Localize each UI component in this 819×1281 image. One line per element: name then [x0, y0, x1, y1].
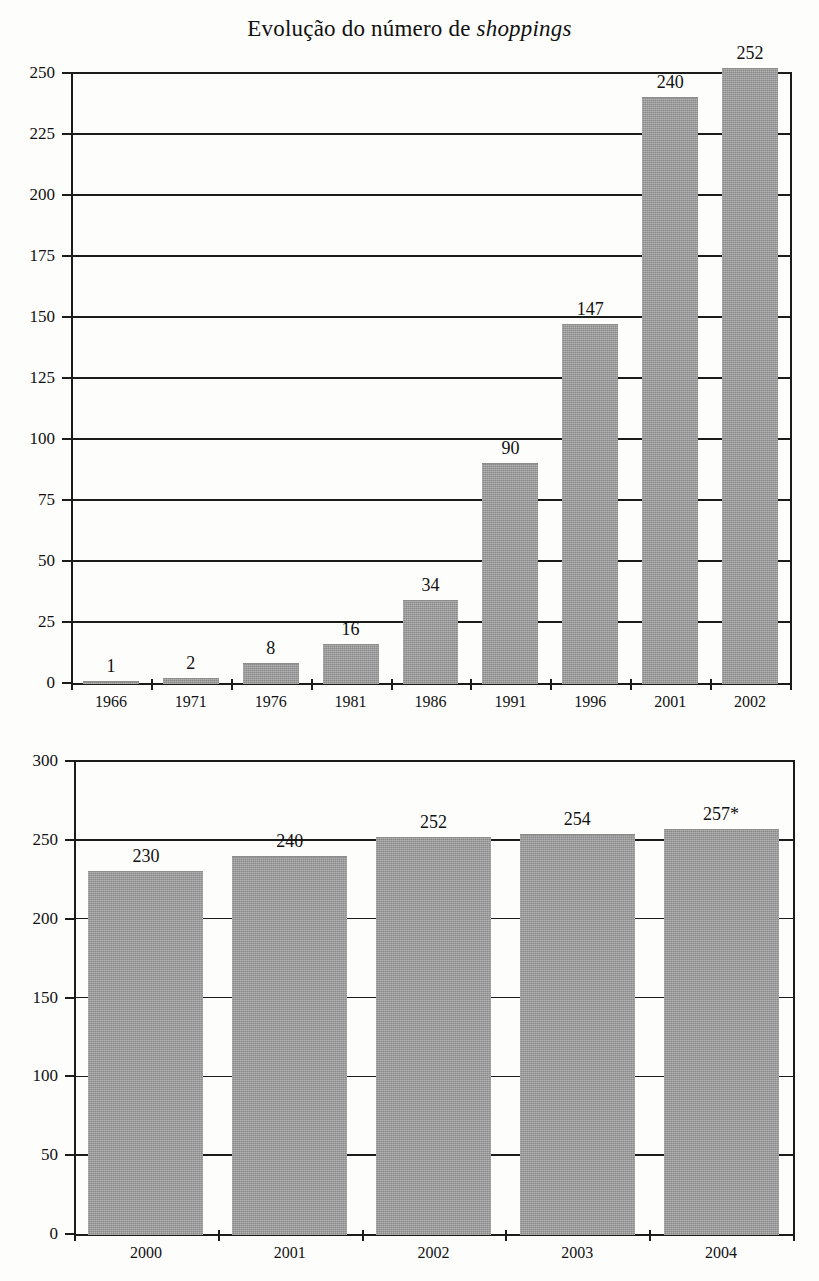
bar	[232, 856, 347, 1235]
x-axis-tick	[505, 1230, 507, 1241]
x-axis-tick	[362, 1230, 364, 1241]
x-axis-label: 2000	[96, 1245, 196, 1261]
gridline	[74, 760, 795, 762]
y-axis-tick	[65, 839, 75, 841]
y-axis-label: 250	[0, 831, 58, 848]
y-axis-tick	[65, 760, 75, 762]
bar-value-label: 230	[96, 847, 196, 865]
bar-value-label: 257*	[671, 805, 771, 823]
y-axis-label: 300	[0, 752, 58, 769]
x-axis-tick	[793, 1230, 795, 1241]
y-axis-label: 50	[0, 1146, 58, 1163]
x-axis-tick	[218, 1230, 220, 1241]
y-axis-label: 150	[0, 989, 58, 1006]
x-axis-tick	[74, 1230, 76, 1241]
bar-value-label: 252	[384, 813, 484, 831]
y-axis-label: 100	[0, 1067, 58, 1084]
bar	[376, 837, 491, 1235]
bar	[520, 834, 635, 1235]
bar-value-label: 240	[240, 832, 340, 850]
y-axis-tick	[65, 1075, 75, 1077]
x-axis-label: 2004	[671, 1245, 771, 1261]
x-axis-tick	[649, 1230, 651, 1241]
chart-page: Evolução do número de shoppings 02550751…	[0, 0, 819, 1281]
y-axis-tick	[65, 997, 75, 999]
y-axis-tick	[65, 1154, 75, 1156]
y-axis-label: 0	[0, 1225, 58, 1242]
bar-value-label: 254	[527, 810, 627, 828]
plot-right-border	[793, 761, 795, 1236]
bar	[88, 871, 203, 1235]
bar-chart-recente: 0501001502002503002302000240200125220022…	[0, 0, 819, 1281]
y-axis-label: 200	[0, 910, 58, 927]
y-axis-tick	[65, 918, 75, 920]
x-axis-label: 2001	[240, 1245, 340, 1261]
bar	[664, 829, 779, 1235]
x-axis-label: 2003	[527, 1245, 627, 1261]
x-axis-label: 2002	[384, 1245, 484, 1261]
